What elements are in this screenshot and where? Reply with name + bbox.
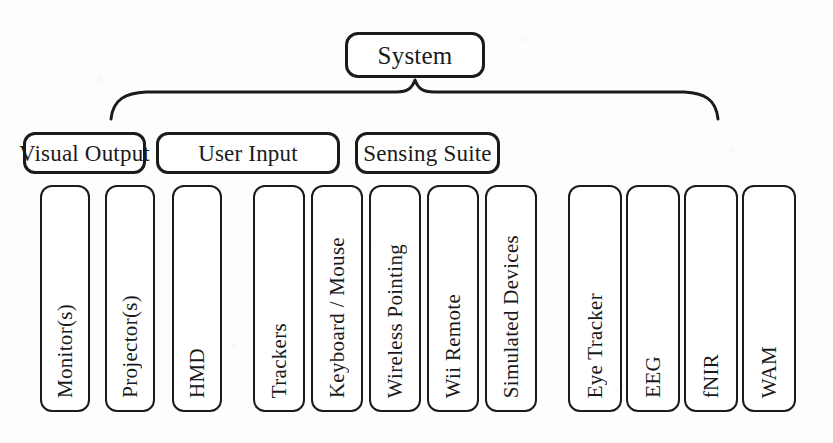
- leaf-simulated-devices-label: Simulated Devices: [501, 235, 522, 398]
- group-header-sensing-suite-label: Sensing Suite: [363, 142, 491, 165]
- leaf-monitors-label: Monitor(s): [55, 304, 76, 398]
- group-header-visual-output[interactable]: Visual Output: [23, 132, 146, 174]
- leaf-eye-tracker[interactable]: Eye Tracker: [568, 185, 622, 412]
- leaf-eeg[interactable]: EEG: [626, 185, 680, 412]
- leaf-wii-remote[interactable]: Wii Remote: [427, 185, 479, 412]
- leaf-keyboard-mouse[interactable]: Keyboard / Mouse: [311, 185, 363, 412]
- group-header-user-input[interactable]: User Input: [156, 132, 340, 174]
- leaf-wii-remote-label: Wii Remote: [443, 294, 464, 398]
- leaf-trackers-label: Trackers: [269, 323, 290, 398]
- leaf-monitors[interactable]: Monitor(s): [40, 185, 90, 412]
- leaf-hmd[interactable]: HMD: [172, 185, 222, 412]
- leaf-wam-label: WAM: [759, 346, 780, 398]
- leaf-eeg-label: EEG: [643, 356, 664, 398]
- group-header-sensing-suite[interactable]: Sensing Suite: [355, 132, 500, 174]
- leaf-wireless-pointing[interactable]: Wireless Pointing: [369, 185, 421, 412]
- group-header-user-input-label: User Input: [198, 142, 298, 165]
- leaf-wireless-pointing-label: Wireless Pointing: [385, 244, 406, 398]
- leaf-wam[interactable]: WAM: [742, 185, 796, 412]
- leaf-keyboard-mouse-label: Keyboard / Mouse: [327, 237, 348, 398]
- leaf-trackers[interactable]: Trackers: [253, 185, 305, 412]
- leaf-eye-tracker-label: Eye Tracker: [585, 293, 606, 398]
- leaf-projectors-label: Projector(s): [120, 295, 141, 398]
- leaf-fnir[interactable]: fNIR: [684, 185, 738, 412]
- node-system[interactable]: System: [345, 32, 485, 78]
- leaf-simulated-devices[interactable]: Simulated Devices: [485, 185, 537, 412]
- leaf-hmd-label: HMD: [187, 348, 208, 398]
- group-header-visual-output-label: Visual Output: [19, 142, 150, 165]
- leaf-projectors[interactable]: Projector(s): [105, 185, 155, 412]
- node-system-label: System: [378, 43, 453, 68]
- diagram-canvas: System Visual Output User Input Sensing …: [0, 0, 833, 443]
- leaf-fnir-label: fNIR: [701, 354, 722, 398]
